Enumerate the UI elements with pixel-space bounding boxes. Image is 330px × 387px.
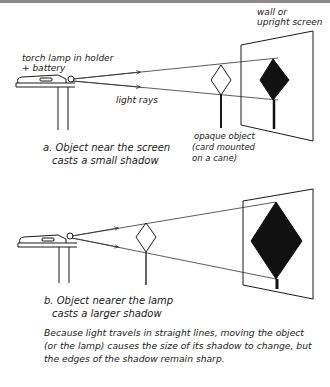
caption-a: a. Object near the screen casts a small …: [43, 142, 173, 166]
diagram-a: [16, 31, 313, 141]
label-opaque-object: opaque object (card mounted on a cane): [192, 131, 258, 163]
table-b: [18, 243, 77, 283]
label-screen: wall or upright screen: [257, 7, 323, 27]
screen-a: [241, 31, 313, 141]
table-a: [16, 83, 75, 130]
label-lamp: torch lamp in holder + battery: [22, 53, 116, 73]
torch-lamp-icon: [20, 233, 74, 243]
shadow-diagram: torch lamp in holder + battery light ray…: [0, 0, 330, 387]
caption-b: b. Object nearer the lamp casts a larger…: [44, 295, 176, 319]
opaque-object-a: [211, 65, 231, 128]
torch-lamp-icon: [18, 75, 75, 83]
explanation-text: Because light travels in straight lines,…: [44, 327, 315, 364]
diagram-b: [18, 189, 313, 299]
label-light-rays: light rays: [116, 95, 158, 105]
